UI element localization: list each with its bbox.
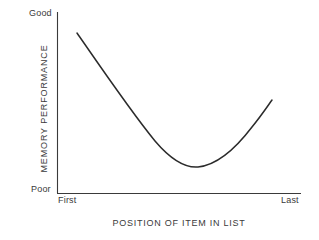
x-axis-end-label: Last bbox=[281, 196, 299, 205]
y-axis-title: MEMORY PERFORMANCE bbox=[40, 29, 49, 189]
serial-position-curve-line bbox=[77, 33, 272, 167]
y-axis-high-label: Good bbox=[29, 9, 52, 18]
x-axis-title: POSITION OF ITEM IN LIST bbox=[57, 219, 301, 228]
serial-position-curve-figure: Good Poor First Last MEMORY PERFORMANCE … bbox=[0, 0, 319, 240]
x-axis-start-label: First bbox=[58, 196, 77, 205]
